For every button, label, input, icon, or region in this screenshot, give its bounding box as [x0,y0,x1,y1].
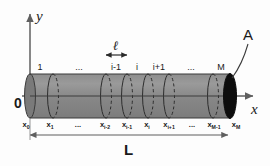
svg-text:xi-2: xi-2 [100,120,110,130]
svg-text:xi+1: xi+1 [163,120,175,130]
node-sub: M [236,124,240,130]
y-axis-label: y [34,8,43,24]
node-label-xi: xi [144,120,150,130]
rod-discretization-figure: y x 0 ℓ A L 1 ... i-1 i i+1 ... M x0 x1 … [0,0,270,166]
svg-text:xi: xi [144,120,150,130]
segment-label-M: M [217,62,225,72]
segment-label-1: 1 [37,62,42,72]
area-leader-line [232,44,248,78]
node-label-xi-minus-2: xi-2 [100,120,110,130]
svg-text:...: ... [75,120,81,129]
segment-label-i-minus-1: i-1 [111,62,121,72]
node-base: ... [189,120,195,129]
node-label-xi-minus-1: xi-1 [122,120,132,130]
svg-text:xM-1: xM-1 [207,120,220,130]
svg-text:xM: xM [232,120,241,130]
segment-label-i-plus-1: i+1 [153,62,165,72]
node-label-xM: xM [232,120,241,130]
node-label-gap-right: ... [189,120,195,129]
node-sub: M-1 [212,124,221,130]
node-label-xM-minus-1: xM-1 [207,120,220,130]
node-sub: i [148,124,150,130]
node-sub: 1 [51,124,54,130]
node-sub: i-1 [126,124,132,130]
node-base: ... [75,120,81,129]
node-sub: 0 [27,124,30,130]
node-sub: i-2 [104,124,110,130]
node-label-xi-plus-1: xi+1 [163,120,175,130]
total-length-label: L [124,141,133,158]
x-axis-label: x [250,101,258,117]
segment-label-gap-right: ... [187,62,195,72]
area-label: A [243,26,253,43]
segment-label-gap-left: ... [75,62,83,72]
end-cap-area [224,74,237,119]
segment-length-label: ℓ [113,38,119,53]
node-sub: i+1 [167,124,174,130]
svg-text:xi-1: xi-1 [122,120,132,130]
origin-label: 0 [14,95,22,111]
node-label-x1: x1 [46,120,53,130]
node-label-x0: x0 [22,120,29,130]
svg-text:x1: x1 [46,120,53,130]
node-label-gap-left: ... [75,120,81,129]
svg-text:...: ... [189,120,195,129]
segment-label-i: i [136,62,138,72]
svg-text:x0: x0 [22,120,29,130]
